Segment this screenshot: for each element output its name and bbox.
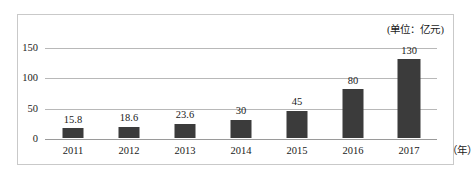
bar-value-label: 45 bbox=[292, 97, 303, 108]
x-tick-label-2011: 2011 bbox=[63, 146, 84, 157]
bar[interactable] bbox=[287, 111, 308, 138]
bar-value-label: 80 bbox=[348, 76, 359, 87]
bar[interactable] bbox=[119, 127, 140, 138]
bar-value-label: 15.8 bbox=[64, 115, 82, 126]
bar-group: 18.62012 bbox=[101, 48, 157, 139]
unit-annotation: (单位：亿元) bbox=[387, 21, 444, 36]
y-tick-label-0: 0 bbox=[33, 134, 38, 145]
bar-value-label: 23.6 bbox=[176, 110, 194, 121]
y-tick-label-50: 50 bbox=[28, 103, 39, 114]
plot-area: 050100150 15.8201118.6201223.62013302014… bbox=[45, 48, 437, 139]
y-tick-label-100: 100 bbox=[22, 73, 38, 84]
x-tick-label-2012: 2012 bbox=[119, 146, 140, 157]
y-tick-label-150: 150 bbox=[22, 43, 38, 54]
x-tick-label-2016: 2016 bbox=[343, 146, 364, 157]
bar-group: 452015 bbox=[269, 48, 325, 139]
bar[interactable] bbox=[231, 120, 252, 138]
bar[interactable] bbox=[398, 59, 421, 138]
bar-value-label: 30 bbox=[236, 106, 247, 117]
bar[interactable] bbox=[63, 128, 84, 138]
bar-group: 15.82011 bbox=[45, 48, 101, 139]
bar-value-label: 130 bbox=[401, 46, 417, 57]
bar-value-label: 18.6 bbox=[120, 113, 138, 124]
bar-group: 802016 bbox=[325, 48, 381, 139]
bar[interactable] bbox=[175, 124, 196, 138]
bar-chart-figure: (单位：亿元) 050100150 15.8201118.6201223.620… bbox=[17, 14, 454, 165]
x-tick-label-2014: 2014 bbox=[231, 146, 252, 157]
bars-layer: 15.8201118.6201223.620133020144520158020… bbox=[45, 48, 437, 139]
gridline-0 bbox=[45, 139, 437, 140]
bar[interactable] bbox=[343, 89, 364, 138]
x-tick-label-2015: 2015 bbox=[287, 146, 308, 157]
bar-group: 302014 bbox=[213, 48, 269, 139]
bar-group: 23.62013 bbox=[157, 48, 213, 139]
x-tick-label-2017: 2017 bbox=[399, 146, 420, 157]
x-axis-unit-label: （年） bbox=[447, 146, 475, 157]
x-tick-label-2013: 2013 bbox=[175, 146, 196, 157]
bar-group: 1302017（年） bbox=[381, 48, 437, 139]
